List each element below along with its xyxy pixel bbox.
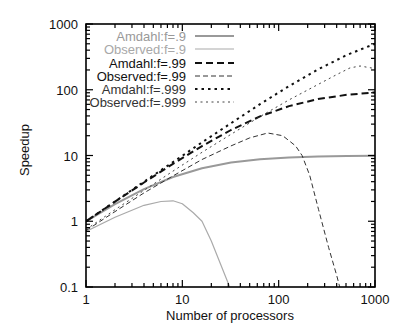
x-tick-label: 1	[82, 292, 89, 307]
y-tick-label: 0.1	[60, 280, 78, 295]
legend-samples	[195, 36, 234, 102]
legend-label-observed-f999: Observed:f=.999	[90, 95, 186, 110]
x-tick-label: 100	[268, 292, 290, 307]
legend: Amdahl:f=.9 Observed:f=.9 Amdahl:f=.99 O…	[90, 29, 234, 110]
tick-labels: 11010010000.11101001000	[49, 17, 389, 307]
series-observed-f-9	[86, 201, 230, 287]
y-tick-label: 10	[64, 149, 78, 164]
legend-label-observed-f9: Observed:f=.9	[104, 42, 186, 57]
y-tick-label: 1000	[49, 17, 78, 32]
x-tick-label: 1000	[361, 292, 390, 307]
y-axis-title: Speedup	[17, 124, 32, 176]
y-tick-label: 100	[56, 83, 78, 98]
x-tick-label: 10	[175, 292, 189, 307]
y-tick-label: 1	[71, 214, 78, 229]
speedup-chart: 11010010000.11101001000 Number of proces…	[0, 0, 407, 334]
x-axis-title: Number of processors	[166, 308, 294, 323]
